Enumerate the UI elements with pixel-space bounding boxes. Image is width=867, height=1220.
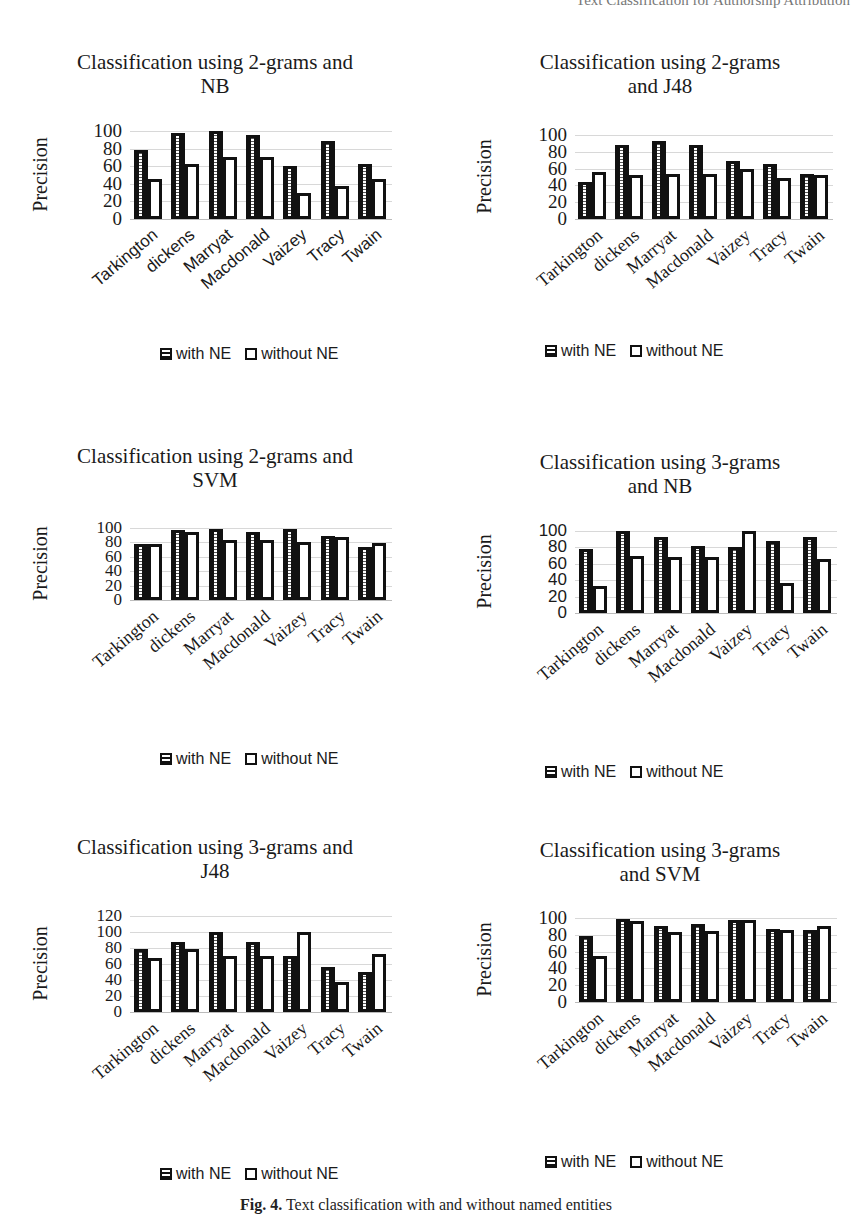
legend-item-without-ne: without NE <box>630 763 723 781</box>
chart-title-line-1: Classification using 3-grams <box>495 838 825 862</box>
y-tick-label: 40 <box>527 177 567 193</box>
empty-swatch-icon <box>630 345 642 357</box>
running-head: Text Classification for Authorship Attri… <box>430 0 850 9</box>
chart-title: Classification using 3-gramsand SVM <box>495 838 825 886</box>
legend-label: without NE <box>646 1153 723 1171</box>
legend-item-without-ne: without NE <box>245 1165 338 1183</box>
bar-with-ne <box>171 942 185 1012</box>
y-tick-label: 100 <box>82 520 122 536</box>
bar-without-ne <box>817 559 831 613</box>
y-tick-label: 0 <box>527 211 567 227</box>
y-tick-label: 60 <box>527 944 567 960</box>
legend-label: with NE <box>176 345 231 363</box>
legend-item-without-ne: without NE <box>245 345 338 363</box>
legend-item-with-ne: with NE <box>160 1165 231 1183</box>
bar-with-ne <box>763 164 777 219</box>
bar-with-ne <box>134 544 148 600</box>
chart-legend: with NEwithout NE <box>160 750 339 768</box>
empty-swatch-icon <box>245 1168 257 1180</box>
y-tick-label: 80 <box>527 927 567 943</box>
gridline <box>130 1012 392 1013</box>
y-tick-label: 0 <box>82 1004 122 1020</box>
gridline <box>130 948 392 949</box>
bar-with-ne <box>283 956 297 1012</box>
bar-without-ne <box>223 157 237 219</box>
y-tick-label: 120 <box>82 908 122 924</box>
bar-without-ne <box>335 537 349 600</box>
y-tick-label: 40 <box>527 572 567 588</box>
y-axis-label: Precision <box>473 910 496 1010</box>
bar-without-ne <box>297 932 311 1012</box>
caption-label: Fig. 4. <box>240 1196 282 1213</box>
legend-label: with NE <box>176 1165 231 1183</box>
chart-title: Classification using 3-grams andJ48 <box>50 835 380 883</box>
dotted-fill-swatch-icon <box>545 345 557 357</box>
bar-with-ne <box>579 936 593 1002</box>
y-tick-label: 60 <box>527 556 567 572</box>
bar-without-ne <box>668 932 682 1002</box>
dotted-fill-swatch-icon <box>160 1168 172 1180</box>
gridline <box>130 528 392 529</box>
bar-with-ne <box>766 929 780 1002</box>
bar-without-ne <box>148 958 162 1012</box>
y-tick-label: 20 <box>527 977 567 993</box>
gridline <box>575 219 833 220</box>
gridline <box>575 547 837 548</box>
bar-without-ne <box>335 982 349 1012</box>
gridline <box>130 219 392 220</box>
bar-with-ne <box>134 150 148 219</box>
y-tick-label: 60 <box>82 549 122 565</box>
plot-area <box>575 918 837 1002</box>
bar-with-ne <box>246 135 260 219</box>
bar-without-ne <box>148 179 162 219</box>
bar-with-ne <box>654 537 668 613</box>
legend-label: without NE <box>646 342 723 360</box>
bar-without-ne <box>742 531 756 613</box>
legend-label: with NE <box>561 342 616 360</box>
bar-without-ne <box>780 930 794 1002</box>
y-tick-label: 100 <box>82 924 122 940</box>
bar-with-ne <box>578 182 592 219</box>
chart-title-line-2: J48 <box>50 859 380 883</box>
chart-legend: with NEwithout NE <box>545 1153 724 1171</box>
bar-with-ne <box>134 949 148 1012</box>
chart-title-line-2: and J48 <box>495 74 825 98</box>
bar-without-ne <box>817 926 831 1002</box>
chart-legend: with NEwithout NE <box>545 342 724 360</box>
plot-area <box>575 531 837 613</box>
gridline <box>575 1002 837 1003</box>
legend-item-with-ne: with NE <box>160 750 231 768</box>
y-tick-label: 40 <box>527 960 567 976</box>
bar-with-ne <box>171 133 185 219</box>
chart-title: Classification using 2-grams andNB <box>50 50 380 98</box>
bar-with-ne <box>246 532 260 600</box>
empty-swatch-icon <box>245 753 257 765</box>
y-axis-label: Precision <box>29 514 52 614</box>
y-axis-label: Precision <box>473 127 496 227</box>
chart-title: Classification using 3-gramsand NB <box>495 450 825 498</box>
legend-item-with-ne: with NE <box>545 763 616 781</box>
bar-with-ne <box>728 920 742 1002</box>
gridline <box>575 135 833 136</box>
y-tick-label: 100 <box>527 910 567 926</box>
y-tick-label: 20 <box>82 988 122 1004</box>
bar-without-ne <box>297 542 311 600</box>
bar-without-ne <box>705 931 719 1002</box>
chart-title-line-1: Classification using 2-grams and <box>50 50 380 74</box>
y-tick-label: 80 <box>527 144 567 160</box>
bar-with-ne <box>321 967 335 1012</box>
chart-title-line-2: and SVM <box>495 862 825 886</box>
legend-item-without-ne: without NE <box>630 342 723 360</box>
gridline <box>130 131 392 132</box>
empty-swatch-icon <box>245 348 257 360</box>
chart-title-line-1: Classification using 2-grams <box>495 50 825 74</box>
y-tick-label: 80 <box>82 940 122 956</box>
legend-label: without NE <box>646 763 723 781</box>
bar-without-ne <box>335 186 349 219</box>
chart-legend: with NEwithout NE <box>160 1165 339 1183</box>
gridline <box>130 600 392 601</box>
chart-title-line-2: and NB <box>495 474 825 498</box>
legend-label: without NE <box>261 1165 338 1183</box>
bar-without-ne <box>185 949 199 1012</box>
bar-without-ne <box>223 540 237 600</box>
